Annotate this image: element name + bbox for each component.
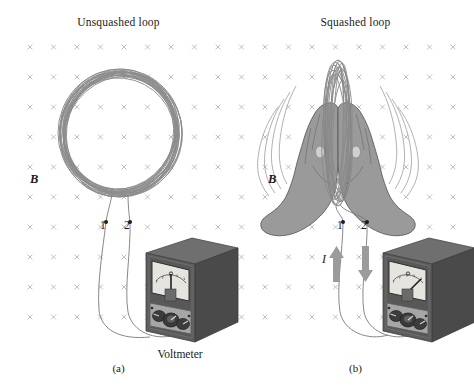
knob-right-panel-a — [177, 319, 190, 330]
field-label-panel-a: B — [30, 172, 38, 187]
terminal-label-1-panel-b: 1 — [337, 219, 343, 231]
knob-left-panel-b — [390, 311, 403, 322]
field-label-panel-b: B — [268, 172, 276, 187]
right-hand — [338, 103, 415, 236]
meter-needle-panel-b — [408, 279, 421, 292]
panel-a-lead-wires — [99, 195, 175, 338]
panel-a-artwork — [0, 0, 474, 391]
current-arrow-up — [329, 246, 344, 282]
panel-a-title: Unsquashed loop — [0, 16, 237, 28]
panel-b-lead-wires — [336, 204, 412, 337]
panel-b-artwork — [0, 0, 474, 391]
unsquashed-coil — [39, 51, 203, 216]
magnetic-field-grid — [0, 0, 474, 391]
left-hand — [261, 103, 338, 236]
knob-center-panel-b — [400, 313, 416, 327]
current-arrow-down — [358, 246, 373, 282]
panel-a-caption: (a) — [0, 362, 237, 374]
terminal-label-1-panel-a: 1 — [100, 219, 106, 231]
knob-center-panel-a — [163, 313, 179, 327]
voltmeter-panel-b — [383, 238, 474, 342]
motion-lines-right — [380, 86, 418, 196]
knob-right-panel-b — [414, 319, 427, 330]
voltmeter-panel-a — [146, 238, 238, 342]
knob-left-panel-a — [153, 311, 166, 322]
current-label-panel-b: I — [322, 252, 326, 267]
voltmeter-label: Voltmeter — [120, 348, 240, 360]
motion-lines-left — [258, 86, 296, 196]
terminal-label-2-panel-b: 2 — [361, 219, 367, 231]
physics-figure-induced-emf: Unsquashed loop Squashed loop B B 1 2 1 … — [0, 0, 474, 391]
terminal-label-2-panel-a: 2 — [124, 219, 130, 231]
panel-b-caption: (b) — [237, 362, 474, 374]
panel-b-title: Squashed loop — [237, 16, 474, 28]
field-into-page-marks — [28, 45, 456, 320]
squashed-coil — [319, 60, 356, 206]
